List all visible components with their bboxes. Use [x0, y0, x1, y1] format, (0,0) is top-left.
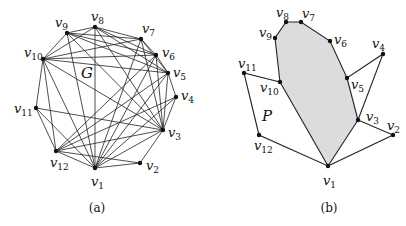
polygon-label-v7: v7 [302, 6, 315, 23]
graph-label-v4: v4 [181, 88, 194, 105]
graph-label-v2: v2 [146, 158, 159, 175]
vertex-v9 [273, 36, 277, 40]
polygon-label-v4: v4 [372, 36, 385, 53]
vertex-v5 [345, 76, 349, 80]
graph-label-v12: v12 [50, 155, 69, 172]
vertex-v10 [278, 80, 282, 84]
vertex-v3 [356, 118, 360, 122]
polygon-label-v11: v11 [238, 56, 257, 73]
polygon-label-v6: v6 [334, 32, 347, 49]
edge-v8-v10 [43, 27, 95, 59]
graph-label-v1: v1 [91, 174, 104, 191]
edge-v1-v2 [95, 163, 140, 168]
graph-edges [36, 27, 176, 168]
panel-b-polygon: v1v2v3v4v5v6v7v8v9v10v11v12 P (b) [238, 5, 400, 215]
edge-v10-v11 [36, 59, 43, 108]
vertex-v4 [174, 95, 178, 99]
edge-v1-v4 [95, 97, 176, 168]
vertex-v1 [93, 166, 97, 170]
polygon-label-v2: v2 [387, 118, 400, 135]
graph-label-v11: v11 [14, 101, 33, 118]
vertex-v6 [328, 39, 332, 43]
graph-label-v8: v8 [91, 9, 104, 26]
vertex-v11 [34, 106, 38, 110]
polygon-label-p: P [261, 107, 273, 125]
polygon-label-v10: v10 [260, 80, 279, 97]
polygon-label-v12: v12 [254, 138, 273, 155]
vertex-v6 [154, 53, 158, 57]
graph-label-v6: v6 [162, 45, 175, 62]
graph-label-v3: v3 [168, 125, 181, 142]
graph-label-g: G [81, 64, 93, 82]
polygon-label-v5: v5 [351, 77, 364, 94]
vertex-v12 [54, 149, 58, 153]
vertex-v8 [93, 25, 97, 29]
vertex-v7 [139, 37, 143, 41]
polygon-label-v8: v8 [276, 5, 289, 22]
vertex-v3 [161, 128, 165, 132]
polygon-label-v9: v9 [259, 25, 272, 42]
polygon-label-v3: v3 [366, 109, 379, 126]
graph-label-v10: v10 [24, 45, 43, 62]
vertex-v12 [257, 133, 261, 137]
vertex-v5 [166, 71, 170, 75]
figure-canvas: v1v2v3v4v5v6v7v8v9v10v11v12 G (a) v1v2v3… [0, 0, 406, 226]
edge-v3-v12 [56, 130, 163, 151]
graph-label-v7: v7 [142, 21, 155, 38]
vertex-v2 [138, 161, 142, 165]
graph-label-v9: v9 [55, 15, 68, 32]
caption-a: (a) [89, 201, 106, 215]
vertex-v1 [326, 164, 330, 168]
graph-label-v5: v5 [173, 65, 186, 82]
panel-a-visibility-graph: v1v2v3v4v5v6v7v8v9v10v11v12 G (a) [14, 9, 194, 215]
caption-b: (b) [320, 201, 337, 215]
polygon-label-v1: v1 [323, 173, 336, 190]
